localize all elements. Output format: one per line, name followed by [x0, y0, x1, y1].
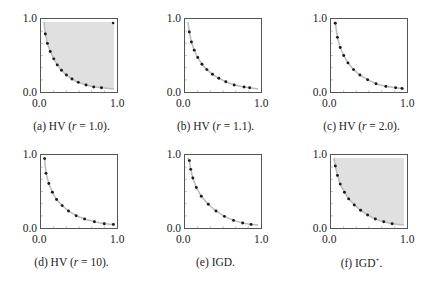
- data-point: [83, 218, 86, 221]
- panel-c: 1.00.00.01.0(c) HV (r = 2.0).: [290, 0, 429, 144]
- data-point: [49, 50, 52, 53]
- data-point: [71, 78, 74, 81]
- data-point: [347, 197, 350, 200]
- y-tick-max: 1.0: [167, 13, 181, 25]
- data-point: [77, 81, 80, 84]
- y-tick-max: 1.0: [313, 13, 327, 25]
- data-point: [188, 159, 191, 162]
- data-point: [191, 177, 194, 180]
- x-tick-max: 1.0: [110, 98, 124, 110]
- data-point: [334, 165, 337, 168]
- x-tick-min: 0.0: [32, 98, 46, 110]
- data-point: [55, 198, 58, 201]
- plot-area: [184, 154, 262, 229]
- panel-b: 1.00.00.01.0(b) HV (r = 1.1).: [144, 0, 287, 144]
- pareto-front-curve: [44, 158, 114, 225]
- data-point: [217, 77, 220, 80]
- data-point: [334, 22, 337, 25]
- data-point: [215, 210, 218, 213]
- data-point: [352, 68, 355, 71]
- data-point: [339, 46, 342, 49]
- pareto-front-curve: [188, 158, 258, 225]
- plot-area: [184, 18, 262, 93]
- data-point: [366, 214, 369, 217]
- data-point: [200, 195, 203, 198]
- data-point: [47, 182, 50, 185]
- data-point: [196, 56, 199, 59]
- data-point: [188, 31, 191, 34]
- x-tick-max: 1.0: [400, 234, 414, 246]
- data-point: [93, 220, 96, 223]
- data-point: [112, 223, 115, 226]
- data-point: [45, 172, 48, 175]
- data-point: [375, 82, 378, 85]
- data-point: [61, 204, 64, 207]
- data-point: [343, 191, 346, 194]
- data-point: [248, 86, 251, 89]
- data-point: [394, 86, 397, 89]
- data-point: [56, 63, 59, 66]
- subfigure-caption: (b) HV (r = 1.1).: [144, 120, 287, 132]
- plot-area: [330, 154, 408, 229]
- data-point: [193, 49, 196, 52]
- data-point: [224, 80, 227, 83]
- data-point: [51, 191, 54, 194]
- data-point: [358, 74, 361, 77]
- data-point: [67, 210, 70, 213]
- data-point: [366, 78, 369, 81]
- x-tick-min: 0.0: [176, 234, 190, 246]
- data-point: [353, 203, 356, 206]
- plot-area: [40, 18, 118, 93]
- x-tick-max: 1.0: [254, 98, 268, 110]
- data-point: [44, 33, 47, 36]
- data-point: [346, 61, 349, 64]
- panel-f: 1.00.00.01.0(f) IGD+.: [290, 136, 429, 280]
- data-point: [374, 218, 377, 221]
- panel-a: 1.00.00.01.0(a) HV (r = 1.0).: [0, 0, 143, 144]
- data-point: [384, 85, 387, 88]
- data-point: [211, 73, 214, 76]
- subfigure-caption: (c) HV (r = 2.0).: [290, 120, 429, 132]
- plot-area: [330, 18, 408, 93]
- y-tick-max: 1.0: [167, 149, 181, 161]
- data-point: [52, 57, 55, 60]
- x-tick-min: 0.0: [176, 98, 190, 110]
- data-point: [359, 209, 362, 212]
- data-point: [232, 219, 235, 222]
- data-point: [241, 222, 244, 225]
- data-point: [339, 183, 342, 186]
- data-point: [65, 74, 68, 77]
- x-tick-max: 1.0: [254, 234, 268, 246]
- plot-area: [40, 154, 118, 229]
- reference-point: [112, 22, 115, 25]
- data-point: [342, 54, 345, 57]
- x-tick-min: 0.0: [322, 98, 336, 110]
- data-point: [46, 42, 49, 45]
- x-tick-max: 1.0: [400, 98, 414, 110]
- subfigure-caption: (d) HV (r = 10).: [0, 256, 143, 268]
- x-tick-min: 0.0: [322, 234, 336, 246]
- data-point: [391, 222, 394, 225]
- subfigure-caption: (e) IGD.: [144, 256, 287, 268]
- panel-e: 1.00.00.01.0(e) IGD.: [144, 136, 287, 280]
- data-point: [233, 84, 236, 87]
- data-point: [92, 86, 95, 89]
- data-point: [250, 223, 253, 226]
- data-point: [336, 36, 339, 39]
- data-point: [43, 157, 46, 160]
- data-point: [189, 168, 192, 171]
- data-point: [401, 87, 404, 90]
- data-point: [85, 84, 88, 87]
- y-tick-max: 1.0: [23, 13, 37, 25]
- data-point: [223, 215, 226, 218]
- data-point: [100, 86, 103, 89]
- data-point: [382, 220, 385, 223]
- data-point: [75, 214, 78, 217]
- subfigure-caption: (f) IGD+.: [290, 256, 429, 269]
- x-tick-min: 0.0: [32, 234, 46, 246]
- shaded-region: [44, 22, 114, 89]
- data-point: [205, 68, 208, 71]
- data-point: [103, 222, 106, 225]
- data-point: [336, 174, 339, 177]
- data-point: [190, 41, 193, 44]
